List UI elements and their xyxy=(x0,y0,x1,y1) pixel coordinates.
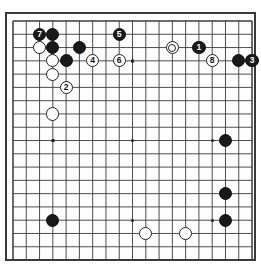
stone-move-number: 3 xyxy=(250,56,255,65)
star-point xyxy=(211,219,214,222)
numbered-stone-black-5[interactable]: 5 xyxy=(113,28,126,41)
stone-black[interactable] xyxy=(73,41,86,54)
numbered-stone-black-7[interactable]: 7 xyxy=(33,28,46,41)
stone-move-number: 6 xyxy=(117,56,122,65)
stone-white[interactable] xyxy=(46,68,59,81)
stone-black[interactable] xyxy=(219,214,232,227)
stone-move-number: 2 xyxy=(64,83,69,92)
go-diagram-container: 75146832 xyxy=(0,0,261,273)
star-point xyxy=(51,139,54,142)
stone-move-number: 4 xyxy=(90,56,95,65)
star-point xyxy=(211,139,214,142)
numbered-stone-black-3[interactable]: 3 xyxy=(245,54,258,67)
stone-black[interactable] xyxy=(60,54,73,67)
stone-move-number: 5 xyxy=(117,30,122,39)
numbered-stone-black-1[interactable]: 1 xyxy=(192,41,205,54)
stone-white[interactable] xyxy=(46,107,59,120)
stone-move-number: 7 xyxy=(37,30,42,39)
numbered-stone-white-2[interactable]: 2 xyxy=(60,81,73,94)
star-point xyxy=(131,59,134,62)
stone-move-number: 1 xyxy=(197,43,202,52)
stone-black[interactable] xyxy=(219,134,232,147)
star-point xyxy=(131,219,134,222)
stone-white[interactable] xyxy=(166,41,179,54)
go-board[interactable]: 75146832 xyxy=(5,12,256,261)
stone-move-number: 8 xyxy=(210,56,215,65)
